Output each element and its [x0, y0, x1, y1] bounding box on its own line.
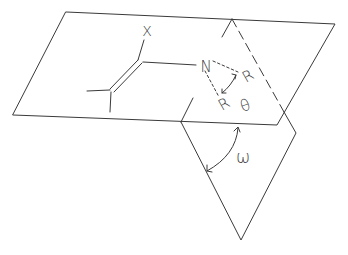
bond-down [110, 92, 111, 112]
bond-n-r-upper [213, 61, 238, 72]
double-bond-a [110, 60, 138, 89]
label-r-upper: R [239, 66, 257, 87]
theta-arc [222, 75, 236, 93]
bond-x [138, 40, 144, 60]
planes-diagram: X N R R θ ω [0, 0, 348, 255]
omega-arc [207, 128, 238, 171]
label-x: X [142, 23, 152, 39]
bond-n [143, 62, 196, 65]
vertical-plane-lower [181, 112, 296, 240]
label-omega: ω [236, 147, 250, 167]
omega-arrowhead-upper [234, 127, 240, 132]
double-bond-b [114, 63, 142, 92]
label-theta: θ [237, 95, 253, 116]
vertical-plane-apex-edge [222, 19, 232, 37]
vertical-plane-left-edge [181, 98, 193, 122]
bond-left [87, 90, 110, 91]
label-r-lower: R [215, 94, 233, 115]
horizontal-plane [13, 12, 335, 125]
label-n: N [200, 58, 211, 76]
